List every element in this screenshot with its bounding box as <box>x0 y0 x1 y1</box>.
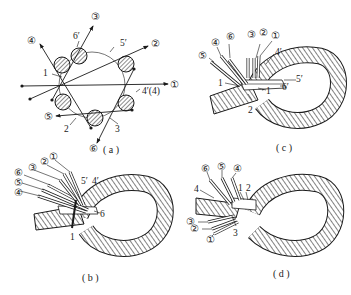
rope-eye-loop <box>80 183 165 249</box>
strand-2 <box>55 94 71 110</box>
label-circled-3: ③ <box>28 163 37 173</box>
label-circled-2: ② <box>259 28 268 38</box>
label-circled-1: ① <box>49 152 58 162</box>
splice-diagram: ③ ④ ② ① ⑤ ⑥ 6′ 5′ 1 4′(4) 2 3 ( a ) <box>0 0 351 295</box>
label-circled-6: ⑥ <box>201 164 210 174</box>
label-1: 1 <box>70 232 75 242</box>
caption-c: ( c ) <box>276 142 292 154</box>
panel-a-cross-section: ③ ④ ② ① ⑤ ⑥ 6′ 5′ 1 4′(4) 2 3 ( a ) <box>20 12 179 156</box>
panel-b-splice: ① ② ③ ⑥ ⑤ ④ 5′ 4′ 6 1 ( b ) <box>14 152 165 284</box>
label-5-prime: 5′ <box>296 74 303 84</box>
label-circled-4: ④ <box>233 164 242 174</box>
label-5-prime: 5′ <box>120 38 127 48</box>
label-4: 4 <box>194 184 199 194</box>
label-circled-6: ⑥ <box>89 144 98 154</box>
label-2: 2 <box>64 124 69 134</box>
panel-d-splice: ⑥ ⑤ ④ 4 1 2 ③ ② ① 3 ( d ) <box>186 162 336 280</box>
label-circled-5: ⑤ <box>44 112 53 122</box>
caption-b: ( b ) <box>82 272 99 284</box>
label-1-left: 1 <box>218 78 223 88</box>
label-circled-5: ⑤ <box>14 178 23 188</box>
label-circled-5: ⑤ <box>217 162 226 172</box>
label-circled-5: ⑤ <box>198 51 207 61</box>
label-circled-1: ① <box>206 235 215 245</box>
label-circled-4: ④ <box>211 38 220 48</box>
label-circled-6: ⑥ <box>14 168 23 178</box>
label-3: 3 <box>233 228 238 238</box>
label-2: 2 <box>246 183 251 193</box>
label-1: 1 <box>43 68 48 78</box>
label-6-prime: 6′ <box>73 31 80 41</box>
label-4-prime-4: 4′(4) <box>142 86 160 97</box>
panel-c-splice: ⑤ ④ ⑥ ③ ② ① 4′ 5′ 6′ 1 1 2 ( c ) <box>198 28 339 154</box>
label-circled-3: ③ <box>247 30 256 40</box>
label-4-prime: 4′ <box>92 176 99 186</box>
label-5-prime: 5′ <box>81 176 88 186</box>
caption-d: ( d ) <box>273 268 290 280</box>
label-6-prime: 6′ <box>282 82 289 92</box>
label-4-prime: 4′ <box>275 47 282 57</box>
label-circled-4: ④ <box>27 36 36 46</box>
label-circled-1: ① <box>271 31 280 41</box>
label-circled-4: ④ <box>14 188 23 198</box>
label-circled-6: ⑥ <box>226 32 235 42</box>
label-circled-3: ③ <box>91 12 100 22</box>
label-1-right: 1 <box>266 86 271 96</box>
label-1: 1 <box>238 183 243 193</box>
rope-eye-loop <box>252 182 336 248</box>
label-circled-2: ② <box>40 157 49 167</box>
label-6: 6 <box>100 209 105 219</box>
caption-a: ( a ) <box>103 144 119 156</box>
label-circled-2: ② <box>190 224 199 234</box>
label-2: 2 <box>248 105 253 115</box>
label-circled-2: ② <box>151 39 160 49</box>
label-3: 3 <box>115 124 120 134</box>
label-circled-1: ① <box>170 80 179 90</box>
